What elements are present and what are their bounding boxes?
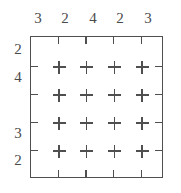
top-tick-3 — [113, 37, 114, 44]
top-label-1: 3 — [30, 11, 46, 27]
plus-marker — [136, 145, 149, 158]
plus-marker — [53, 117, 66, 130]
grid-puzzle-figure: 3 2 4 2 3 2 4 3 2 — [0, 0, 181, 193]
plus-marker — [80, 89, 93, 102]
bottom-tick-4 — [141, 170, 142, 177]
plus-marker — [136, 89, 149, 102]
plus-marker — [108, 89, 121, 102]
plus-marker — [136, 61, 149, 74]
left-label-1: 2 — [10, 42, 26, 58]
plus-marker — [136, 117, 149, 130]
left-tick-3 — [31, 122, 38, 123]
bottom-tick-3 — [113, 170, 114, 177]
plot-box — [30, 36, 163, 178]
bottom-tick-1 — [58, 170, 59, 177]
plus-marker — [108, 117, 121, 130]
plus-marker — [108, 145, 121, 158]
plus-marker — [108, 61, 121, 74]
top-tick-1 — [58, 37, 59, 44]
plus-marker — [53, 89, 66, 102]
top-tick-2 — [85, 37, 86, 44]
right-tick-2 — [155, 94, 162, 95]
bottom-tick-2 — [85, 170, 86, 177]
left-tick-4 — [31, 150, 38, 151]
left-tick-1 — [31, 66, 38, 67]
plus-marker — [80, 117, 93, 130]
right-tick-1 — [155, 66, 162, 67]
left-label-3: 3 — [10, 126, 26, 142]
plus-marker — [53, 145, 66, 158]
left-label-2: 4 — [10, 70, 26, 86]
top-tick-4 — [141, 37, 142, 44]
plus-marker — [53, 61, 66, 74]
right-tick-3 — [155, 122, 162, 123]
plus-marker — [80, 61, 93, 74]
left-label-4: 2 — [10, 153, 26, 169]
left-tick-2 — [31, 94, 38, 95]
top-label-2: 2 — [57, 11, 73, 27]
top-label-4: 2 — [112, 11, 128, 27]
right-tick-4 — [155, 150, 162, 151]
top-label-5: 3 — [140, 11, 156, 27]
plus-marker — [80, 145, 93, 158]
top-label-3: 4 — [85, 11, 101, 27]
